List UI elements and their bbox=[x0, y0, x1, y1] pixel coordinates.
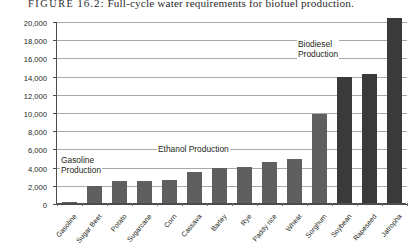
figure-number: 16.2: bbox=[77, 0, 104, 9]
annotation-biodiesel-production: Biodiesel Production bbox=[297, 40, 339, 59]
annotation-gasoline-production: Gasoline Production bbox=[60, 156, 102, 175]
bar bbox=[337, 77, 353, 203]
y-tick-label: 12,000 bbox=[24, 91, 47, 100]
bar bbox=[262, 162, 278, 203]
annotation-line-2: Production bbox=[298, 50, 338, 60]
y-tick-label: 8,000 bbox=[28, 128, 47, 137]
annotation-line-2: Production bbox=[61, 166, 101, 176]
y-tick-label: 0 bbox=[43, 201, 47, 210]
y-tick-label: 6,000 bbox=[28, 146, 47, 155]
bar bbox=[237, 167, 253, 203]
plot-area: 02,0004,0006,0008,00010,00012,00014,0001… bbox=[56, 22, 406, 204]
figure-caption-text: Full-cycle water requirements for biofue… bbox=[107, 0, 354, 9]
annotation-line-1: Ethanol Production bbox=[158, 145, 229, 155]
bar bbox=[387, 18, 403, 203]
y-tick-label: 2,000 bbox=[28, 182, 47, 191]
x-axis-label: Rye bbox=[248, 203, 261, 216]
y-tick-label: 4,000 bbox=[28, 164, 47, 173]
x-tick bbox=[57, 203, 58, 206]
y-tick-label: 16,000 bbox=[24, 55, 47, 64]
bar-series bbox=[57, 21, 407, 203]
y-tick-label: 18,000 bbox=[24, 37, 47, 46]
x-axis-labels: GasolineSugar BeetPotatoSugarcaneCornCas… bbox=[56, 212, 412, 243]
y-tick-label: 10,000 bbox=[24, 110, 47, 119]
annotation-ethanol-production: Ethanol Production bbox=[157, 145, 230, 155]
y-tick-label: 20,000 bbox=[24, 19, 47, 28]
figure-label: FIGURE bbox=[28, 0, 74, 9]
bar bbox=[362, 74, 378, 203]
bar bbox=[187, 172, 203, 203]
bar bbox=[62, 202, 78, 203]
bar bbox=[312, 114, 328, 203]
y-tick-label: 14,000 bbox=[24, 73, 47, 82]
y-axis-title: Gallons of Water per Gallon of Output bbox=[1, 0, 13, 34]
figure-caption: FIGURE 16.2: Full-cycle water requiremen… bbox=[28, 0, 412, 9]
bar-chart: Gallons of Water per Gallon of Output 02… bbox=[0, 14, 412, 243]
